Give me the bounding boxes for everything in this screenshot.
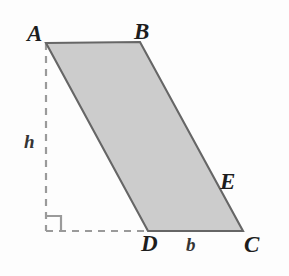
height-dimension-label: h	[24, 132, 35, 151]
parallelogram-shape	[46, 42, 243, 231]
vertex-label-a: A	[27, 22, 42, 45]
vertex-label-d: D	[141, 232, 158, 255]
vertex-label-c: C	[244, 233, 259, 256]
right-angle-marker-icon	[46, 216, 61, 231]
vertex-label-b: B	[134, 20, 149, 43]
vertex-label-e: E	[220, 170, 235, 193]
base-dimension-label: b	[186, 235, 196, 254]
diagram-canvas: A B C D E h b	[0, 0, 289, 276]
